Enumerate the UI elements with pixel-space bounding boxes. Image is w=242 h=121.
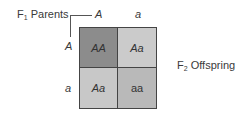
top-allele-2: a [135,8,141,20]
genotype-label: AA [91,42,106,54]
f2-offspring-label: F2 Offspring [177,59,235,72]
punnett-square: AA Aa Aa aa [79,27,157,109]
f1-prefix: F [17,8,24,20]
bracket-horizontal-line [71,15,92,16]
genotype-label: Aa [92,82,105,94]
cell-Aa-top: Aa [118,28,156,68]
genotype-label: Aa [130,42,143,54]
f1-text: Parents [28,8,69,20]
cell-aa: aa [118,68,156,108]
f2-text: Offspring [188,59,236,71]
cell-AA: AA [80,28,118,68]
f1-parents-label: F1 Parents [17,8,69,21]
f2-prefix: F [177,59,184,71]
top-allele-1: A [95,8,102,20]
genotype-label: aa [131,82,143,94]
left-allele-1: A [65,40,72,52]
left-allele-2: a [65,82,71,94]
bracket-vertical-line [70,15,71,37]
cell-Aa-bottom: Aa [80,68,118,108]
